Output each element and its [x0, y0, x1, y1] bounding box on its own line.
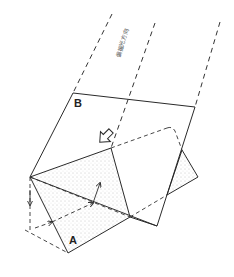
prism-side-shade [167, 150, 198, 195]
parallel-rays [73, 14, 220, 148]
face-b-label: B [74, 97, 82, 109]
ray-left [73, 14, 112, 93]
ray-right [195, 22, 220, 107]
face-a-label: A [69, 234, 77, 246]
arrow-entry [35, 222, 52, 228]
